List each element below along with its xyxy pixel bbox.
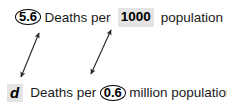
label-deaths-per-bottom: Deaths per [30, 86, 96, 100]
arrow-denominator-to-value-icon [21, 33, 39, 77]
equation-row-top: 5.6 Deaths per 1000 population [0, 8, 227, 27]
circled-denominator-bottom: 0.6 [100, 85, 126, 101]
label-population-bottom: million population [129, 86, 227, 100]
highlighted-unknown-bottom: d [7, 84, 23, 102]
label-deaths-per-top: Deaths per [45, 11, 111, 25]
circled-value-top: 5.6 [15, 9, 41, 25]
rate-conversion-diagram: 5.6 Deaths per 1000 population d Deaths … [0, 0, 227, 107]
label-population-top: population [161, 11, 223, 25]
highlighted-denominator-top: 1000 [118, 8, 154, 27]
equation-row-bottom: d Deaths per 0.6 million population [0, 84, 227, 102]
arrow-value-to-denominator-icon [91, 30, 111, 74]
